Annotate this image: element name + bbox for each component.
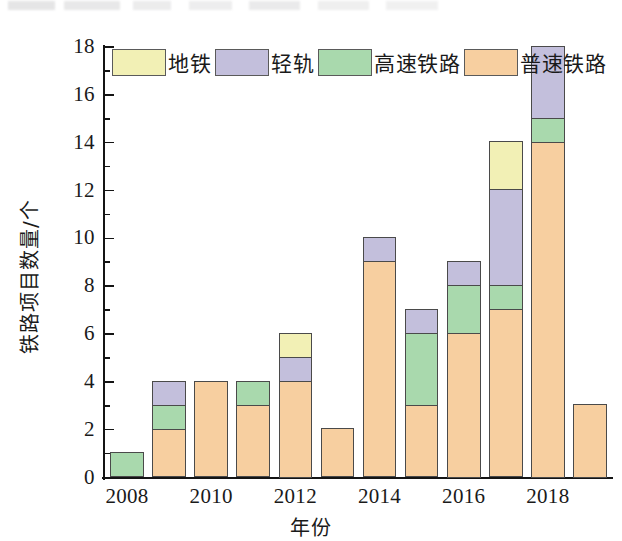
bar-segment[interactable] [152, 404, 186, 429]
bar-segment[interactable] [236, 381, 270, 406]
bar-segment[interactable] [405, 333, 439, 406]
bar-group[interactable] [531, 47, 565, 478]
bar-group[interactable] [279, 334, 313, 478]
bar-segment[interactable] [405, 309, 439, 334]
bar-group[interactable] [321, 430, 355, 478]
bar-group[interactable] [110, 454, 144, 478]
legend-label: 地铁 [166, 47, 215, 77]
legend-item[interactable]: 普速铁路 [464, 47, 610, 77]
bar-group[interactable] [405, 310, 439, 477]
bar-segment[interactable] [363, 261, 397, 478]
bar-segment[interactable] [321, 428, 355, 477]
bar-segment[interactable] [489, 309, 523, 478]
bar-segment[interactable] [279, 381, 313, 478]
bar-segment[interactable] [447, 261, 481, 286]
legend-label: 轻轨 [269, 47, 318, 77]
bar-group[interactable] [363, 238, 397, 477]
legend-item[interactable]: 轻轨 [215, 47, 318, 77]
x-axis-title: 年份 [0, 512, 622, 541]
bar-segment[interactable] [447, 333, 481, 478]
bar-segment[interactable] [489, 141, 523, 190]
bar-segment[interactable] [405, 404, 439, 477]
bar-segment[interactable] [279, 357, 313, 382]
legend-label: 普速铁路 [518, 47, 610, 77]
bar-group[interactable] [194, 382, 228, 478]
bar-series-container [0, 0, 622, 541]
bar-segment[interactable] [110, 452, 144, 477]
bar-group[interactable] [236, 382, 270, 478]
bar-segment[interactable] [194, 381, 228, 478]
legend-swatch-icon [464, 49, 518, 76]
bar-segment[interactable] [573, 404, 607, 477]
y-axis-title: 铁路项目数量/个 [14, 152, 43, 402]
legend-swatch-icon [318, 49, 372, 76]
chart-figure: 024681012141618 200820102012201420162018… [0, 0, 622, 541]
bar-group[interactable] [447, 262, 481, 477]
bar-segment[interactable] [447, 285, 481, 334]
bar-segment[interactable] [489, 189, 523, 286]
bar-segment[interactable] [531, 141, 565, 477]
bar-segment[interactable] [489, 285, 523, 310]
bar-segment[interactable] [152, 381, 186, 406]
legend-label: 高速铁路 [372, 47, 464, 77]
chart-legend: 地铁轻轨高速铁路普速铁路 [112, 47, 610, 77]
bar-segment[interactable] [531, 117, 565, 142]
bar-group[interactable] [489, 143, 523, 478]
bar-segment[interactable] [152, 428, 186, 477]
bar-segment[interactable] [363, 237, 397, 262]
legend-item[interactable]: 高速铁路 [318, 47, 464, 77]
bar-segment[interactable] [279, 333, 313, 358]
legend-swatch-icon [112, 49, 166, 76]
bar-group[interactable] [152, 382, 186, 478]
bar-segment[interactable] [236, 404, 270, 477]
legend-swatch-icon [215, 49, 269, 76]
bar-group[interactable] [573, 406, 607, 478]
legend-item[interactable]: 地铁 [112, 47, 215, 77]
